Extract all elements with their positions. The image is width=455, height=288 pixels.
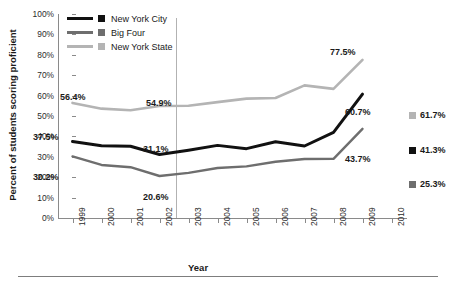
target-marker-big-four: 25.3%	[409, 179, 446, 189]
y-tick-label: 70%	[20, 71, 54, 79]
y-tick-label: 10%	[20, 194, 54, 202]
legend-item-big-four: Big Four	[67, 26, 207, 39]
annotation-nys-1999: 56.4%	[60, 92, 86, 102]
annotation-nyc-2002: 31.1%	[143, 144, 169, 154]
clipped-header-text	[0, 0, 455, 3]
y-tick-label: 50%	[20, 112, 54, 120]
x-tick-mark	[305, 219, 306, 223]
x-tick-mark	[218, 219, 219, 223]
target-marker-new-york-state: 61.7%	[409, 110, 446, 120]
target-label: 61.7%	[420, 110, 446, 120]
legend-label: New York State	[111, 42, 173, 52]
annotation-big4-2002: 20.6%	[143, 192, 169, 202]
x-tick-mark	[73, 219, 74, 223]
legend-line-icon	[67, 17, 93, 20]
annotation-nys-2009: 77.5%	[330, 47, 356, 57]
y-tick-label: 0%	[20, 214, 54, 222]
legend-label: Big Four	[111, 28, 145, 38]
annotation-big4-2009: 43.7%	[345, 154, 371, 164]
chart-legend: New York City Big Four New York State	[67, 12, 207, 54]
x-tick-mark	[334, 219, 335, 223]
x-tick-mark	[102, 219, 103, 223]
y-tick-label: 60%	[20, 92, 54, 100]
legend-swatch-icon	[98, 15, 105, 22]
x-tick-mark	[363, 219, 364, 223]
annotation-big4-1999: 30.2%	[33, 172, 59, 182]
target-swatch-icon	[409, 112, 416, 119]
y-tick-label: 90%	[20, 30, 54, 38]
target-swatch-icon	[409, 181, 416, 188]
x-tick-mark	[189, 219, 190, 223]
series-line-big-four	[73, 129, 363, 176]
target-swatch-icon	[409, 147, 416, 154]
annotation-nyc-1999: 37.5%	[33, 132, 59, 142]
x-tick-mark	[160, 219, 161, 223]
x-tick-mark	[276, 219, 277, 223]
annotation-nyc-2009: 60.7%	[345, 107, 371, 117]
annotation-nys-2002: 54.9%	[146, 98, 172, 108]
bottom-divider-rule	[18, 276, 438, 277]
legend-swatch-icon	[98, 29, 105, 36]
legend-item-new-york-city: New York City	[67, 12, 207, 25]
legend-line-icon	[67, 45, 93, 48]
y-tick-label: 80%	[20, 51, 54, 59]
x-tick-mark	[247, 219, 248, 223]
y-tick-label: 100%	[20, 10, 54, 18]
target-label: 41.3%	[420, 145, 446, 155]
legend-label: New York City	[111, 14, 167, 24]
series-line-new-york-state	[73, 60, 363, 110]
legend-item-new-york-state: New York State	[67, 40, 207, 53]
x-axis-title: Year	[188, 262, 208, 273]
x-tick-mark	[392, 219, 393, 223]
legend-line-icon	[67, 31, 93, 34]
legend-swatch-icon	[98, 43, 105, 50]
target-label: 25.3%	[420, 179, 446, 189]
x-tick-mark	[131, 219, 132, 223]
target-marker-new-york-city: 41.3%	[409, 145, 446, 155]
chart-figure: Percent of students scoring proficient Y…	[0, 0, 455, 288]
y-axis-ticks: 100%90%80%70%60%50%40%30%20%10%0%	[18, 0, 54, 288]
y-tick-label: 30%	[20, 153, 54, 161]
